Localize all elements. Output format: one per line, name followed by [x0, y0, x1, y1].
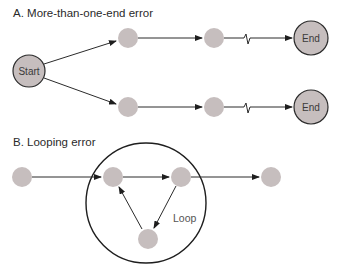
loop-label: Loop	[173, 212, 197, 224]
edge-a2-to-end-break	[224, 34, 292, 44]
end-label-1: End	[302, 33, 320, 44]
node-b4	[261, 167, 281, 187]
node-a3	[118, 97, 138, 117]
section-a-title: A. More-than-one-end error	[13, 7, 153, 19]
edge-start-to-a3	[44, 78, 116, 104]
node-b1	[103, 167, 123, 187]
node-b0	[12, 167, 32, 187]
edge-b3-to-b1	[119, 187, 142, 229]
edge-start-to-a1	[44, 41, 116, 64]
node-a1	[118, 28, 138, 48]
edge-a4-to-end-break	[224, 103, 292, 113]
node-b2	[171, 167, 191, 187]
end-label-2: End	[302, 102, 320, 113]
node-a4	[204, 97, 224, 117]
start-label: Start	[18, 66, 39, 77]
section-b-title: B. Looping error	[13, 136, 96, 148]
node-b3	[138, 229, 158, 249]
node-a2	[204, 28, 224, 48]
flow-error-diagram: A. More-than-one-end error Start End End…	[0, 0, 342, 267]
